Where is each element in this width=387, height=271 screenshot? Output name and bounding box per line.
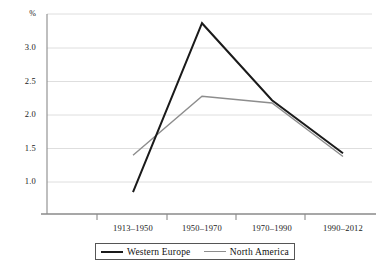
x-axis-tick-label: 1990–2012 <box>308 223 378 233</box>
legend-label: Western Europe <box>127 247 191 257</box>
y-axis-tick-label: 1.0 <box>10 176 36 186</box>
legend-item-north-america: North America <box>204 247 289 257</box>
y-axis-tick-label: 3.0 <box>10 42 36 52</box>
x-axis-tick-label: 1970–1990 <box>237 223 307 233</box>
chart-legend: Western EuropeNorth America <box>95 243 295 260</box>
y-axis-unit-label: % <box>10 9 36 18</box>
y-axis-tick-label: 2.5 <box>10 76 36 86</box>
series-line-north-america <box>133 96 343 156</box>
growth-rate-line-chart: % 1.01.52.02.53.0 1913–19501950–19701970… <box>0 0 387 271</box>
legend-line-swatch <box>101 251 123 253</box>
y-axis-tick-label: 2.0 <box>10 109 36 119</box>
legend-label: North America <box>230 247 289 257</box>
legend-item-western-europe: Western Europe <box>101 247 191 257</box>
legend-line-swatch <box>204 251 226 252</box>
x-axis-tick-label: 1950–1970 <box>167 223 237 233</box>
series-line-western-europe <box>133 23 343 192</box>
x-axis-tick-label: 1913–1950 <box>98 223 168 233</box>
y-axis-tick-label: 1.5 <box>10 143 36 153</box>
